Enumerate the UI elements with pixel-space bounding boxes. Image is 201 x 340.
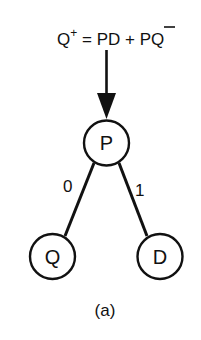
input-arrow xyxy=(97,50,116,119)
node-root: P xyxy=(84,121,129,166)
equation-lhs: Q xyxy=(57,30,70,49)
equation-lhs-superscript: + xyxy=(70,26,77,40)
node-right-label: D xyxy=(153,246,167,268)
equation-term1: PD xyxy=(97,30,121,49)
figure-caption: (a) xyxy=(95,301,116,320)
edge-root-to-left xyxy=(65,163,94,236)
node-root-label: P xyxy=(100,132,113,154)
equation-term2-rest: Q xyxy=(151,30,164,49)
equation-term2-barred: P xyxy=(140,30,151,49)
edge-label-right: 1 xyxy=(135,181,144,200)
edges: 0 1 xyxy=(63,163,147,236)
edge-label-left: 0 xyxy=(63,177,72,196)
node-left: Q xyxy=(30,234,75,279)
equation-plus: + xyxy=(125,30,135,49)
node-left-label: Q xyxy=(45,246,61,268)
arrow-head-icon xyxy=(97,93,116,119)
equation: Q+ = PD + PQ xyxy=(57,26,175,49)
node-right: D xyxy=(138,234,183,279)
equation-equals: = xyxy=(82,30,92,49)
svg-text:Q+ = PD + PQ: Q+ = PD + PQ xyxy=(57,26,164,49)
mux-decision-tree-diagram: Q+ = PD + PQ 0 1 P Q D (a) xyxy=(0,0,201,340)
